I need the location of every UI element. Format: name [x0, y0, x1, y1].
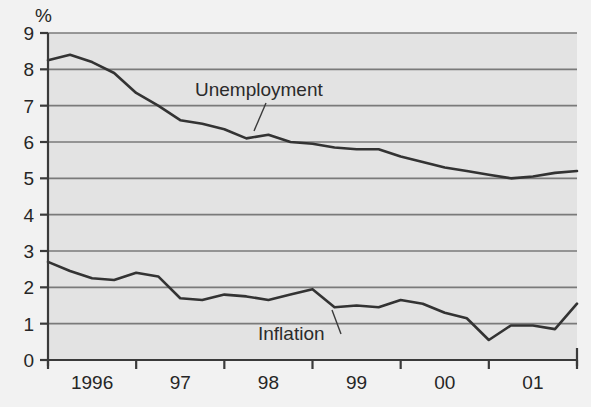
- y-tick-label: 9: [23, 23, 34, 44]
- y-tick-label: 4: [23, 205, 34, 226]
- x-tick-label: 99: [346, 372, 367, 393]
- y-tick-label: 8: [23, 59, 34, 80]
- economics-line-chart: 0123456789 19969798990001 % Unemployment…: [0, 0, 591, 407]
- y-tick-label: 2: [23, 277, 34, 298]
- x-tick-label: 01: [522, 372, 543, 393]
- y-tick-label: 7: [23, 96, 34, 117]
- y-tick-label: 0: [23, 350, 34, 371]
- series-label-unemployment: Unemployment: [195, 79, 323, 100]
- x-tick-label: 1996: [71, 372, 113, 393]
- x-tick-label: 00: [434, 372, 455, 393]
- y-tick-label: 5: [23, 168, 34, 189]
- y-tick-label: 1: [23, 314, 34, 335]
- y-tick-label: 3: [23, 241, 34, 262]
- y-tick-label: 6: [23, 132, 34, 153]
- chart-container: 0123456789 19969798990001 % Unemployment…: [0, 0, 591, 407]
- x-tick-label: 98: [258, 372, 279, 393]
- x-tick-label: 97: [170, 372, 191, 393]
- series-label-inflation: Inflation: [258, 323, 325, 344]
- y-axis-unit-label: %: [35, 5, 52, 26]
